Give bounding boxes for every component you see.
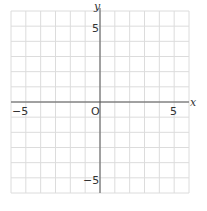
origin-label: O	[91, 105, 100, 118]
coordinate-plane: x y O −5 5 5 −5	[0, 0, 207, 211]
y-axis-label: y	[93, 0, 101, 13]
x-tick-neg5: −5	[12, 105, 28, 118]
y-tick-neg5: −5	[83, 174, 99, 187]
y-tick-5: 5	[92, 22, 99, 35]
x-axis-label: x	[190, 96, 197, 109]
x-tick-5: 5	[170, 105, 177, 118]
